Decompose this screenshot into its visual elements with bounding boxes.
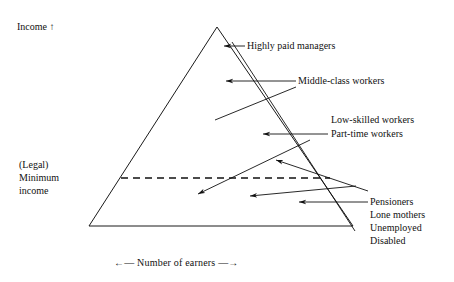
number-of-earners-axis-label: ←— Number of earners —→	[114, 256, 239, 269]
group-label-bottom-categories: Pensioners Lone mothers Unemployed Disab…	[370, 195, 425, 247]
pyramid-triangle	[89, 27, 353, 226]
minimum-income-label: (Legal) Minimum income	[19, 158, 59, 197]
leader-line-diagonal-middle	[215, 87, 296, 120]
leader-line-bottom-fan-lower	[250, 186, 356, 196]
group-label-middle-class-workers: Middle-class workers	[298, 74, 384, 87]
group-label-low-skilled-workers: Low-skilled workers	[331, 113, 414, 126]
group-label-part-time-workers: Part-time workers	[331, 127, 403, 140]
diagram-canvas: Income ↑ (Legal) Minimum income ←— Numbe…	[0, 0, 454, 282]
group-label-highly-paid-managers: Highly paid managers	[247, 39, 335, 52]
leader-line-diagonal-parttime	[198, 140, 310, 194]
income-axis-label: Income ↑	[17, 20, 55, 33]
